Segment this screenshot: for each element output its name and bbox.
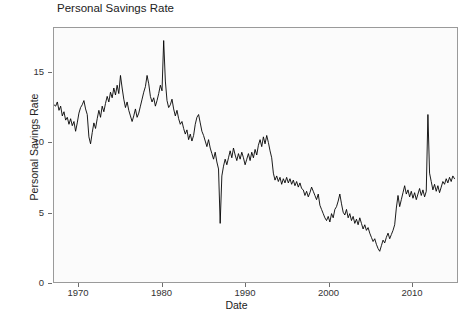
x-axis-tick-mark xyxy=(412,283,413,287)
data-series-line xyxy=(54,41,455,252)
y-axis-tick-label: 15 xyxy=(22,66,44,77)
x-axis-tick-label: 2000 xyxy=(309,287,349,298)
x-axis-tick-label: 1970 xyxy=(58,287,98,298)
x-axis-tick-mark xyxy=(162,283,163,287)
y-axis-tick-label: 5 xyxy=(22,207,44,218)
x-axis-tick-label: 1980 xyxy=(142,287,182,298)
x-axis-tick-mark xyxy=(245,283,246,287)
plot-area xyxy=(53,27,458,283)
y-axis-tick-mark xyxy=(48,283,52,284)
y-axis-tick-label: 0 xyxy=(22,277,44,288)
y-axis-tick-mark xyxy=(48,213,52,214)
y-axis-tick-label: 10 xyxy=(22,136,44,147)
x-axis-label: Date xyxy=(0,299,473,311)
x-axis-tick-label: 1990 xyxy=(225,287,265,298)
chart-root: Personal Savings Rate Personal Savings R… xyxy=(0,0,473,316)
x-axis-tick-mark xyxy=(78,283,79,287)
x-axis-tick-mark xyxy=(329,283,330,287)
x-axis-tick-label: 2010 xyxy=(392,287,432,298)
y-axis-tick-mark xyxy=(48,142,52,143)
page-title: Personal Savings Rate xyxy=(57,2,174,14)
data-line-svg xyxy=(54,28,457,282)
y-axis-tick-mark xyxy=(48,72,52,73)
